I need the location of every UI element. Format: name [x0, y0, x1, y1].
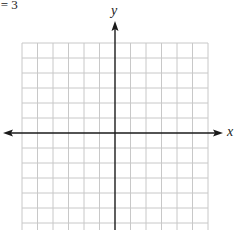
y-axis-label: y	[111, 3, 117, 19]
coordinate-plane	[0, 0, 234, 230]
x-axis-label: x	[227, 124, 233, 140]
x-axis	[3, 130, 223, 137]
y-axis	[112, 21, 119, 230]
